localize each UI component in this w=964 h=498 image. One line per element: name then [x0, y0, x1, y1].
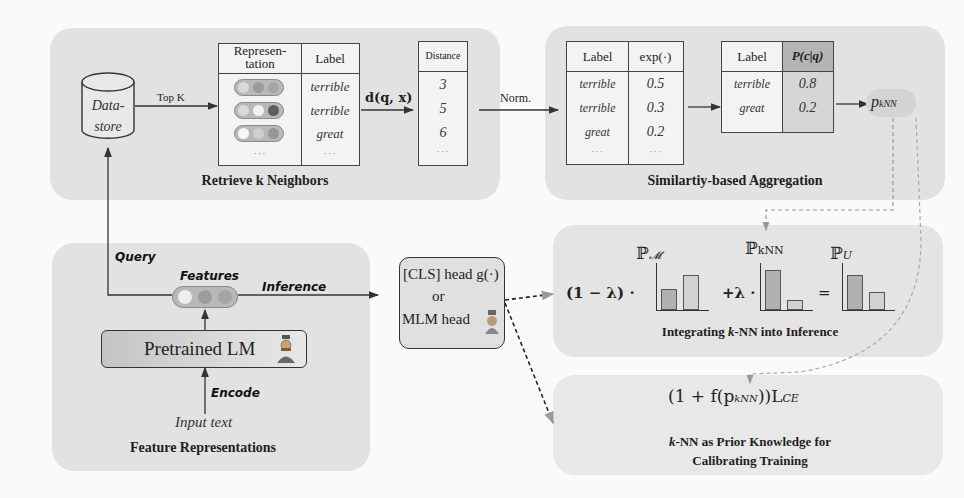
formula-part: ))L	[758, 386, 783, 406]
pknn-bar-1	[765, 270, 781, 310]
header-distance: Distance	[419, 50, 467, 61]
row-label: great	[567, 125, 628, 140]
probability-table: Label P(c|q) terrible 0.8 great 0.2	[721, 41, 834, 133]
representation-label-table: Represen- tation Label terrible terrible…	[218, 43, 360, 166]
formula-subscript: CE	[782, 392, 798, 405]
formula-subscript: kNN	[734, 393, 758, 404]
input-text-label: Input text	[175, 414, 232, 431]
feature-dot	[253, 128, 264, 139]
feature-representations-title: Feature Representations	[108, 440, 298, 456]
similarity-aggregation-title: Similartiy-based Aggregation	[620, 173, 850, 189]
mlm-head-label: MLM head	[402, 311, 470, 328]
feature-dot	[268, 82, 279, 93]
row-value: 0.5	[628, 76, 683, 92]
feature-dot	[268, 105, 279, 116]
row-value: 0.2	[782, 100, 833, 116]
header-probability: P(c|q)	[782, 48, 833, 64]
row-label: great	[301, 126, 359, 142]
norm-label: Norm.	[500, 91, 531, 106]
row-label: terrible	[301, 79, 359, 95]
calibrating-title-line2: Calibrating Training	[630, 451, 870, 470]
retrieve-neighbors-title: Retrieve k Neighbors	[185, 173, 345, 189]
representation-pill	[234, 102, 284, 119]
feature-dot	[238, 128, 249, 139]
row-value: 0.3	[628, 100, 683, 116]
datastore-label: Data- store	[82, 95, 134, 137]
encode-label: Encode	[211, 386, 260, 400]
pu-label: ℙU	[830, 243, 852, 263]
one-minus-lambda: (1 − λ) ·	[566, 284, 635, 302]
classification-head-box: [CLS] head g(·) or MLM head	[399, 257, 505, 349]
calibrating-training-title: k-NN as Prior Knowledge for Calibrating …	[630, 432, 870, 470]
feature-dot	[238, 105, 249, 116]
feature-dot	[218, 290, 232, 304]
row-label: great	[722, 101, 782, 116]
distance-value: 5	[419, 101, 467, 117]
feature-dot	[253, 82, 264, 93]
pu-bar-2	[869, 292, 885, 310]
pm-label: ℙ𝓜	[636, 243, 661, 263]
pm-bar-2	[683, 275, 699, 310]
datastore-label-line2: store	[82, 116, 134, 137]
row-value: 0.2	[628, 124, 683, 140]
exp-table: Label exp(·) terrible 0.5 terrible 0.3 g…	[566, 41, 684, 165]
header-label: Label	[301, 51, 359, 67]
features-pill	[172, 286, 238, 308]
header-representation: Represen- tation	[219, 44, 301, 70]
row-label: terrible	[567, 101, 628, 116]
pknn-bar-2	[787, 300, 803, 310]
title-part: Integrating	[662, 324, 728, 339]
header-label: Label	[722, 49, 782, 65]
formula-part: (1 + f(p	[668, 386, 734, 406]
ellipsis: ···	[219, 148, 301, 159]
feature-dot	[238, 82, 249, 93]
pm-subscript: 𝓜	[649, 249, 661, 262]
row-label: terrible	[301, 103, 359, 119]
row-value: 0.8	[782, 76, 833, 92]
title-part: -NN as Prior Knowledge for	[675, 434, 831, 449]
calibration-formula: (1 + f(pkNN))LCE	[668, 386, 799, 406]
distance-value: 6	[419, 125, 467, 141]
representation-pill	[234, 125, 284, 142]
ellipsis: ···	[419, 146, 467, 157]
feature-dot	[268, 128, 279, 139]
header-representation-line2: tation	[219, 57, 301, 70]
pknn-dist-subscript: kNN	[758, 244, 784, 257]
pknn-symbol: p	[871, 93, 879, 110]
pretrained-lm-box: Pretrained LM	[101, 330, 307, 368]
ellipsis: ···	[301, 148, 359, 159]
model-avatar-icon	[275, 335, 297, 363]
pknn-dist-symbol: ℙ	[745, 238, 758, 258]
pu-chart	[842, 263, 895, 311]
pm-symbol: ℙ	[636, 243, 649, 263]
integrating-knn-title: Integrating k-NN into Inference	[630, 324, 870, 340]
title-part: -NN into Inference	[734, 324, 838, 339]
inference-label: Inference	[262, 280, 326, 294]
mlm-avatar-icon	[484, 310, 500, 334]
pknn-subscript: kNN	[879, 98, 897, 109]
feature-dot	[178, 290, 192, 304]
query-label: Query	[115, 250, 156, 264]
representation-pill	[234, 79, 284, 96]
distance-table: Distance 3 5 6 ···	[418, 41, 468, 166]
distance-value: 3	[419, 77, 467, 93]
row-label: terrible	[567, 77, 628, 92]
or-label: or	[432, 288, 445, 305]
equals-sign: =	[818, 284, 831, 302]
ellipsis: ···	[567, 146, 628, 157]
cls-head-label: [CLS] head g(·)	[403, 266, 499, 283]
plus-lambda: +λ ·	[722, 284, 756, 302]
topk-label: Top K	[157, 91, 185, 103]
ellipsis: ···	[628, 146, 683, 157]
features-label: Features	[180, 269, 239, 283]
pknn-chart	[760, 263, 813, 311]
distance-function-label: d(q, x)	[365, 90, 412, 105]
pretrained-lm-label: Pretrained LM	[144, 338, 255, 360]
row-label: terrible	[722, 77, 782, 92]
calibrating-title-line1: k-NN as Prior Knowledge for	[630, 432, 870, 451]
pknn-label: pkNN	[871, 93, 897, 111]
pu-bar-1	[847, 275, 863, 310]
pm-chart	[656, 263, 709, 311]
pm-bar-1	[661, 289, 677, 310]
pknn-dist-label: ℙkNN	[745, 238, 784, 258]
